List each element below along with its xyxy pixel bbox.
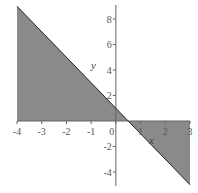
x-axis-ticks: -4-3-2-10123 (13, 121, 193, 137)
function-plot: -4-3-2-10123 -4-22468 x y (0, 0, 198, 193)
x-tick-label: -2 (62, 126, 70, 137)
y-tick-label: -2 (104, 141, 112, 152)
x-tick-label: 2 (163, 126, 168, 137)
x-tick-label: 0 (109, 126, 114, 137)
y-tick-label: 4 (107, 65, 112, 76)
y-axis-label: y (90, 59, 96, 71)
x-tick-label: -4 (13, 126, 21, 137)
x-tick-label: 3 (188, 126, 193, 137)
x-tick-label: -3 (38, 126, 46, 137)
y-tick-label: 6 (107, 39, 112, 50)
x-tick-label: -1 (87, 126, 95, 137)
y-tick-label: -4 (104, 167, 112, 178)
y-axis-ticks: -4-22468 (104, 14, 116, 178)
x-tick-label: 1 (138, 126, 143, 137)
x-axis-label: x (148, 134, 154, 146)
y-tick-label: 8 (107, 14, 112, 25)
y-tick-label: 2 (107, 90, 112, 101)
